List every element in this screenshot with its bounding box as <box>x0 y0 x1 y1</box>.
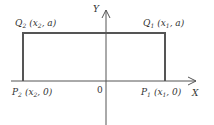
y-axis-label: Y <box>93 4 100 14</box>
rectangle-path <box>23 33 165 81</box>
coordinate-diagram: Y X 0 Q2(x2, a) Q1(x1, a) P2(x2, 0) P1(x… <box>0 0 214 125</box>
origin-label: 0 <box>97 85 103 95</box>
point-label-q1: Q1(x1, a) <box>143 18 185 29</box>
x-axis-label: X <box>191 88 199 98</box>
point-label-p1: P1(x1, 0) <box>140 87 182 98</box>
point-label-q2: Q2(x2, a) <box>15 18 57 29</box>
point-label-p2: P2(x2, 0) <box>11 87 53 98</box>
